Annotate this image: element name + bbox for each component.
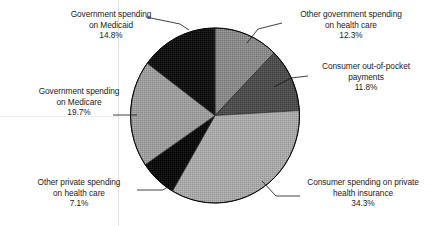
slice-label-line1: Government spending xyxy=(4,86,154,97)
slice-label-line1: Other government spending xyxy=(268,9,434,20)
slice-label-consumer-out-of-pocket: Consumer out-of-pocket payments 11.8% xyxy=(296,61,436,93)
slice-label-percent: 7.1% xyxy=(8,198,150,209)
slice-label-line2: on health care xyxy=(268,20,434,31)
slice-label-government-medicaid: Government spending on Medicaid 14.8% xyxy=(36,9,186,41)
slice-label-percent: 11.8% xyxy=(296,82,436,93)
slice-label-percent: 34.3% xyxy=(284,198,442,209)
pie-slices xyxy=(130,28,299,203)
slice-label-line1: Other private spending xyxy=(8,177,150,188)
slice-label-line1: Government spending xyxy=(36,9,186,20)
slice-label-line1: Consumer out-of-pocket xyxy=(296,61,436,72)
slice-label-government-medicare: Government spending on Medicare 19.7% xyxy=(4,86,154,118)
slice-label-consumer-private-insurance: Consumer spending on private health insu… xyxy=(284,177,442,209)
slice-label-other-private: Other private spending on health care 7.… xyxy=(8,177,150,209)
slice-label-other-government: Other government spending on health care… xyxy=(268,9,434,41)
slice-label-line2: on health care xyxy=(8,188,150,199)
slice-label-line1: Consumer spending on private xyxy=(284,177,442,188)
slice-label-line2: on Medicare xyxy=(4,97,154,108)
slice-label-line2: payments xyxy=(296,72,436,83)
slice-label-percent: 14.8% xyxy=(36,30,186,41)
slice-label-percent: 12.3% xyxy=(268,30,434,41)
slice-label-line2: health insurance xyxy=(284,188,442,199)
slice-label-line2: on Medicaid xyxy=(36,20,186,31)
pie-chart-figure: Government spending on Medicaid 14.8% Ot… xyxy=(0,0,443,226)
slice-label-percent: 19.7% xyxy=(4,107,154,118)
